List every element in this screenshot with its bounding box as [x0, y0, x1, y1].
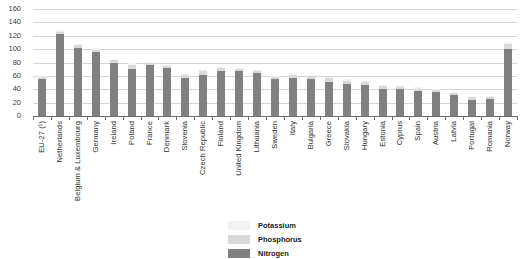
- bar-segment-nitrogen: [504, 49, 512, 116]
- x-category-label: Czech Republic: [199, 121, 207, 175]
- stacked-bar[interactable]: [271, 76, 279, 116]
- x-category-label: Cyprus: [396, 121, 404, 145]
- bar-slot[interactable]: [499, 9, 517, 116]
- bar-slot[interactable]: [266, 9, 284, 116]
- x-tick: [338, 116, 339, 120]
- bar-slot[interactable]: [51, 9, 69, 116]
- x-tick: [427, 116, 428, 120]
- bar-segment-nitrogen: [450, 95, 458, 116]
- stacked-bar[interactable]: [343, 79, 351, 116]
- bar-slot[interactable]: [409, 9, 427, 116]
- stacked-bar[interactable]: [379, 85, 387, 116]
- x-tick: [194, 116, 195, 120]
- bar-slot[interactable]: [338, 9, 356, 116]
- bar-slot[interactable]: [481, 9, 499, 116]
- legend-item[interactable]: Nitrogen: [228, 247, 408, 259]
- stacked-bar[interactable]: [56, 30, 64, 116]
- bar-slot[interactable]: [374, 9, 392, 116]
- stacked-bar[interactable]: [38, 75, 46, 116]
- bar-slot[interactable]: [141, 9, 159, 116]
- bar-slot[interactable]: [463, 9, 481, 116]
- legend-item[interactable]: Phosphorus: [228, 233, 408, 245]
- x-category-label: Germany: [92, 121, 100, 153]
- bar-slot[interactable]: [87, 9, 105, 116]
- bar-slot[interactable]: [392, 9, 410, 116]
- x-category-label: Poland: [128, 121, 136, 145]
- x-tick: [230, 116, 231, 120]
- x-category-label: Romania: [486, 121, 494, 152]
- bar-segment-nitrogen: [432, 92, 440, 116]
- legend-swatch-icon: [228, 221, 250, 230]
- x-category-label: Netherlands: [56, 121, 64, 163]
- x-tick: [105, 116, 106, 120]
- x-tick: [141, 116, 142, 120]
- stacked-bar[interactable]: [450, 92, 458, 116]
- x-tick: [356, 116, 357, 120]
- bar-segment-nitrogen: [396, 89, 404, 116]
- legend-item[interactable]: Potassium: [228, 219, 408, 231]
- bar-slot[interactable]: [320, 9, 338, 116]
- stacked-bar[interactable]: [128, 63, 136, 116]
- x-tick: [87, 116, 88, 120]
- bar-slot[interactable]: [212, 9, 230, 116]
- stacked-bar[interactable]: [92, 48, 100, 116]
- stacked-bar[interactable]: [361, 81, 369, 116]
- bar-slot[interactable]: [427, 9, 445, 116]
- bar-slot[interactable]: [230, 9, 248, 116]
- stacked-bar[interactable]: [432, 89, 440, 116]
- bar-slot[interactable]: [248, 9, 266, 116]
- bar-segment-nitrogen: [271, 79, 279, 116]
- bar-slot[interactable]: [284, 9, 302, 116]
- stacked-bar[interactable]: [199, 70, 207, 116]
- stacked-bar[interactable]: [396, 85, 404, 116]
- bar-segment-nitrogen: [181, 78, 189, 116]
- stacked-bar[interactable]: [181, 74, 189, 116]
- legend-label: Potassium: [258, 221, 296, 230]
- stacked-bar[interactable]: [468, 96, 476, 116]
- bar-slot[interactable]: [158, 9, 176, 116]
- bar-segment-nitrogen: [74, 48, 82, 116]
- bar-segment-nitrogen: [146, 65, 154, 116]
- stacked-bar[interactable]: [146, 62, 154, 116]
- bar-slot[interactable]: [302, 9, 320, 116]
- stacked-bar[interactable]: [235, 68, 243, 116]
- bar-slot[interactable]: [176, 9, 194, 116]
- stacked-bar[interactable]: [253, 69, 261, 116]
- bar-segment-nitrogen: [163, 68, 171, 116]
- stacked-bar[interactable]: [217, 67, 225, 116]
- stacked-bar[interactable]: [504, 42, 512, 116]
- stacked-bar[interactable]: [325, 77, 333, 116]
- bar-slot[interactable]: [445, 9, 463, 116]
- bar-slot[interactable]: [123, 9, 141, 116]
- bar-slot[interactable]: [194, 9, 212, 116]
- chart-legend: PotassiumPhosphorusNitrogen: [228, 219, 408, 259]
- x-category-label: Ireland: [110, 121, 118, 145]
- y-tick-label: 160: [0, 5, 21, 13]
- bar-segment-nitrogen: [217, 71, 225, 116]
- y-tick-label: 100: [0, 45, 21, 53]
- stacked-bar[interactable]: [486, 96, 494, 116]
- stacked-bar[interactable]: [74, 44, 82, 116]
- stacked-bar[interactable]: [163, 65, 171, 116]
- stacked-bar[interactable]: [110, 59, 118, 117]
- x-category-label: United Kingdom: [235, 121, 243, 176]
- bar-slot[interactable]: [69, 9, 87, 116]
- bar-slot[interactable]: [33, 9, 51, 116]
- bar-segment-nitrogen: [343, 84, 351, 116]
- x-tick: [302, 116, 303, 120]
- x-category-label: Denmark: [163, 121, 171, 152]
- bar-slot[interactable]: [356, 9, 374, 116]
- x-tick: [123, 116, 124, 120]
- stacked-bar[interactable]: [414, 87, 422, 116]
- legend-swatch-icon: [228, 249, 250, 258]
- stacked-bar[interactable]: [307, 75, 315, 116]
- bar-segment-nitrogen: [325, 82, 333, 116]
- bar-segment-nitrogen: [199, 75, 207, 116]
- x-category-label: Slovenia: [181, 121, 189, 151]
- x-category-label: Greece: [325, 121, 333, 146]
- stacked-bar[interactable]: [289, 73, 297, 116]
- x-category-label: France: [146, 121, 154, 145]
- bar-slot[interactable]: [105, 9, 123, 116]
- x-category-label: Portugal: [468, 121, 476, 150]
- bar-segment-nitrogen: [379, 89, 387, 116]
